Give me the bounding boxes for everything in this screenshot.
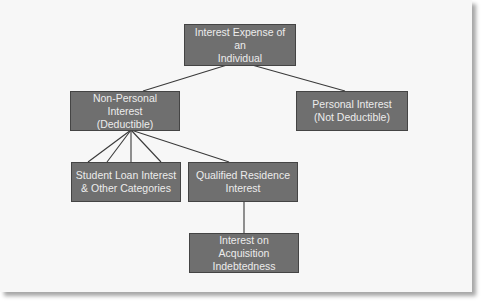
node-student-loan-interest: Student Loan Interest & Other Categories <box>71 162 181 202</box>
edge-nonpersonal-student-2 <box>107 130 131 162</box>
node-label: Interest Expense of an Individual <box>188 26 292 65</box>
node-label: Student Loan Interest & Other Categories <box>76 169 176 195</box>
node-label: Non-Personal Interest (Deductible) <box>74 92 176 131</box>
node-label: Interest on Acquisition Indebtedness <box>193 234 295 273</box>
node-label: Qualified Residence Interest <box>196 169 290 195</box>
node-non-personal-interest: Non-Personal Interest (Deductible) <box>70 91 180 131</box>
node-qualified-residence-interest: Qualified Residence Interest <box>188 162 298 202</box>
node-personal-interest: Personal Interest (Not Deductible) <box>296 91 408 131</box>
node-interest-expense-root: Interest Expense of an Individual <box>184 24 296 66</box>
edge-root-nonpersonal <box>143 65 227 91</box>
node-label: Personal Interest (Not Deductible) <box>312 98 391 124</box>
edge-root-personal <box>252 65 345 91</box>
edge-nonpersonal-student-1 <box>88 130 131 162</box>
node-acquisition-indebtedness: Interest on Acquisition Indebtedness <box>189 233 299 273</box>
